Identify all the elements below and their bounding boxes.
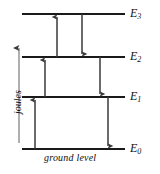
ground-level-label: ground level <box>44 153 96 163</box>
level-label-E0-subscript: 0 <box>137 147 141 156</box>
level-label-E1: E1 <box>130 90 141 104</box>
level-label-E3: E3 <box>130 7 141 21</box>
absorption-arrows <box>35 17 57 149</box>
energy-level-diagram: joules E3 E2 E1 E0 ground level <box>0 0 160 174</box>
level-label-E2-subscript: 2 <box>137 55 141 64</box>
level-label-E3-subscript: 3 <box>137 12 141 21</box>
level-lines <box>22 14 125 149</box>
level-label-E1-subscript: 1 <box>137 95 141 104</box>
energy-axis-label: joules <box>13 90 23 114</box>
level-label-E0: E0 <box>130 142 141 156</box>
level-label-E2: E2 <box>130 50 141 64</box>
emission-arrows <box>82 14 108 146</box>
